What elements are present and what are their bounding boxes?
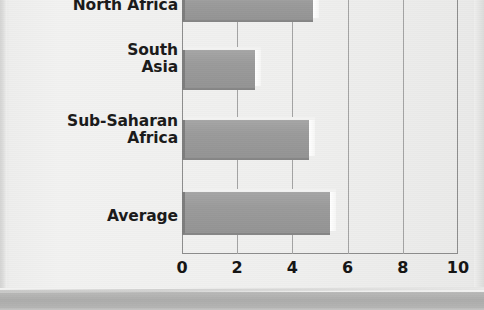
category-label-south-asia: South Asia [127, 42, 178, 76]
page-footer-band [0, 288, 484, 310]
bar-highlight-edge [255, 47, 261, 86]
bar-north-africa [182, 0, 313, 22]
bar-row [182, 0, 458, 22]
category-label-sub-saharan-africa: Sub-Saharan Africa [67, 113, 178, 147]
bar-highlight-edge [313, 0, 319, 18]
bar-row [182, 50, 458, 90]
scan-edge-left [0, 0, 7, 296]
x-tick-label-4: 4 [287, 258, 298, 277]
x-tick-label-0: 0 [176, 258, 187, 277]
bar-highlight-top [185, 117, 315, 120]
bar-highlight-edge [330, 189, 336, 231]
bar-chart-plot-area [182, 0, 458, 254]
x-tick-label-6: 6 [342, 258, 353, 277]
bar-row [182, 120, 458, 160]
category-label-north-africa: North Africa [73, 0, 178, 14]
x-tick-label-8: 8 [397, 258, 408, 277]
bar-highlight-edge [309, 117, 315, 156]
scan-edge-right [474, 0, 484, 294]
bar-average [182, 192, 330, 235]
x-tick-label-10: 10 [447, 258, 469, 277]
bar-highlight-top [185, 47, 261, 50]
bar-highlight-top [185, 189, 336, 192]
bar-south-asia [182, 50, 255, 90]
bar-row [182, 192, 458, 235]
category-label-average: Average [107, 208, 178, 225]
bar-sub-saharan-africa [182, 120, 309, 160]
x-tick-label-2: 2 [232, 258, 243, 277]
scanned-page: North AfricaSouth AsiaSub-Saharan Africa… [0, 0, 484, 310]
